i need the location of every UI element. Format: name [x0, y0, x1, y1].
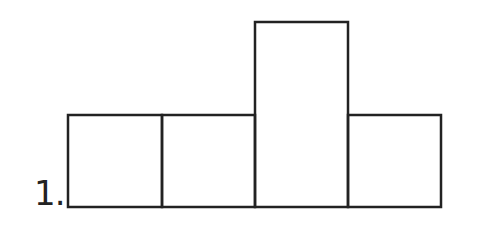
square-4	[348, 115, 441, 207]
square-2	[162, 115, 255, 207]
square-1	[68, 115, 162, 207]
shape-figure	[0, 0, 482, 230]
tall-rectangle	[255, 22, 348, 207]
